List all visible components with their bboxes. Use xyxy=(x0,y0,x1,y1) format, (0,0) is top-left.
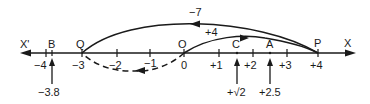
arc-o-to-q-dashed xyxy=(82,53,184,71)
axis-left-label: X' xyxy=(20,38,29,50)
svg-text:+3: +3 xyxy=(279,59,292,71)
tick-labels: −4 −3 −2 −1 0 +1 +2 +3 +4 xyxy=(34,57,323,71)
number-line-svg: X' X −4 −3 −2 −1 0 +1 +2 +3 +4 xyxy=(0,0,370,104)
svg-text:+1: +1 xyxy=(210,59,223,71)
point-label-c: C xyxy=(232,38,240,50)
pointer-c-label: +√2 xyxy=(227,86,246,98)
point-label-b: B xyxy=(48,38,55,50)
arc-p-to-q xyxy=(82,24,318,53)
arc-p-to-q-arrow-icon xyxy=(190,21,200,28)
svg-text:+2: +2 xyxy=(244,59,257,71)
axis-left-arrow-icon xyxy=(20,50,31,57)
number-line-diagram: X' X −4 −3 −2 −1 0 +1 +2 +3 +4 xyxy=(0,0,370,104)
pointer-c-arrow-icon xyxy=(234,58,240,66)
point-a-dot xyxy=(269,52,271,54)
svg-text:−4: −4 xyxy=(34,59,47,71)
svg-text:−3: −3 xyxy=(72,59,85,71)
pointer-b-arrow-icon xyxy=(49,58,55,66)
point-label-q: Q xyxy=(76,38,85,50)
arc-o-to-q-arrow-icon xyxy=(135,67,145,74)
pointer-a-arrow-icon xyxy=(267,58,273,66)
svg-text:+4: +4 xyxy=(310,59,323,71)
arc-o-to-p-label: +4 xyxy=(205,26,218,38)
pointer-a-label: +2.5 xyxy=(259,86,281,98)
pointer-b-label: −3.8 xyxy=(38,86,60,98)
axis-right-label: X xyxy=(344,37,352,49)
point-c-dot xyxy=(236,52,238,54)
point-label-o: O xyxy=(178,38,187,50)
arc-o-to-p xyxy=(184,36,318,53)
point-label-p: P xyxy=(314,37,321,49)
svg-text:−1: −1 xyxy=(144,57,157,69)
axis-right-arrow-icon xyxy=(345,50,356,57)
svg-text:0: 0 xyxy=(181,59,187,71)
arc-p-to-q-label: −7 xyxy=(189,6,202,18)
